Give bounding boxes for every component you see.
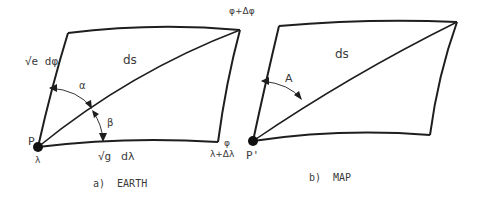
caption-map: b) MAP [309, 172, 351, 183]
label-alpha: α [79, 80, 86, 91]
caption-earth: a) EARTH [93, 178, 147, 189]
label-angle-A: A [285, 72, 293, 85]
map-top-edge [279, 21, 457, 26]
panel-earth: √e dφ ds α β P λ √g dλ φ+Δφ φ λ+Δλ a) EA… [25, 6, 255, 189]
label-phi-plus-dphi: φ+Δφ [229, 6, 255, 16]
label-earth-ds: ds [123, 53, 137, 67]
label-phi: φ [224, 138, 230, 148]
earth-top-edge [68, 27, 240, 33]
earth-right-edge [218, 30, 240, 142]
label-dlambda: dλ [121, 150, 135, 163]
map-right-edge [430, 22, 457, 135]
map-diagonal-ds [253, 22, 457, 141]
earth-diagonal-ds [38, 30, 240, 147]
label-lambda-plus-dlambda: λ+Δλ [210, 149, 235, 159]
earth-bottom-edge [38, 140, 218, 147]
label-point-p-prime: P' [246, 149, 259, 162]
panel-map: ds A P' b) MAP [246, 21, 457, 183]
label-map-ds: ds [335, 47, 349, 61]
map-bottom-edge [253, 133, 430, 141]
map-point-p-prime-marker [248, 136, 258, 146]
label-point-p: P [28, 135, 35, 148]
label-sqrt-g: √g [98, 150, 111, 163]
label-sqrt-e-dphi: √e dφ [25, 55, 58, 68]
figure-canvas: √e dφ ds α β P λ √g dλ φ+Δφ φ λ+Δλ a) EA… [0, 0, 481, 202]
label-lambda: λ [35, 155, 41, 165]
beta-arrowhead-top [92, 110, 99, 118]
label-beta: β [107, 117, 113, 128]
